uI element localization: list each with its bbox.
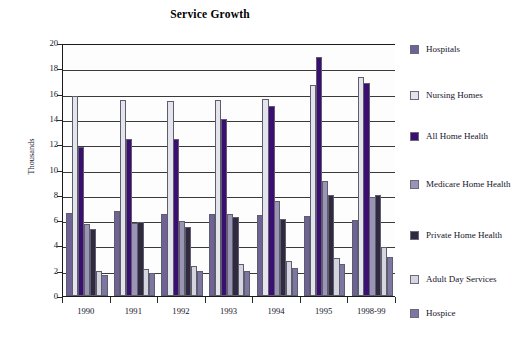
y-axis-tick-mark — [57, 196, 62, 197]
x-axis-tick-label: 1998-99 — [347, 306, 395, 316]
x-axis-tick-mark — [62, 297, 63, 303]
x-axis-tick-mark — [157, 297, 158, 303]
x-axis-tick-mark — [395, 297, 396, 303]
bar-group — [114, 45, 155, 296]
y-axis-tick-mark — [57, 272, 62, 273]
legend-item-label: Adult Day Services — [426, 274, 496, 285]
x-axis-tick-label: 1993 — [205, 306, 253, 316]
x-axis-tick-mark — [110, 297, 111, 303]
legend-item-label: Hospice — [426, 308, 456, 319]
y-axis-tick-mark — [57, 246, 62, 247]
legend-item[interactable]: Nursing Homes — [410, 90, 483, 101]
bar — [197, 271, 203, 296]
y-axis-tick-mark — [57, 171, 62, 172]
bar-group — [209, 45, 250, 296]
legend-item[interactable]: Medicare Home Health — [410, 179, 510, 190]
y-axis-tick-mark — [57, 297, 62, 298]
bar-group — [257, 45, 298, 296]
legend-item-label: All Home Health — [426, 131, 488, 142]
y-axis-tick-label: 20 — [38, 39, 58, 48]
bar-groups — [63, 45, 395, 296]
chart-title: Service Growth — [0, 8, 420, 20]
y-axis-tick-mark — [57, 145, 62, 146]
legend-item[interactable]: Hospitals — [410, 44, 460, 55]
plot-area — [62, 44, 395, 297]
y-axis-tick-label: 8 — [38, 191, 58, 200]
bar — [339, 264, 345, 296]
x-axis-tick-label: 1990 — [62, 306, 110, 316]
x-axis-tick-mark — [252, 297, 253, 303]
legend-swatch-icon — [410, 180, 419, 189]
bar — [244, 271, 250, 296]
x-axis-tick-label: 1991 — [110, 306, 158, 316]
legend-swatch-icon — [410, 309, 419, 318]
bar-group — [66, 45, 107, 296]
x-axis-tick-mark — [205, 297, 206, 303]
y-axis-tick-mark — [57, 120, 62, 121]
y-axis-tick-label: 0 — [38, 292, 58, 301]
bar-group — [304, 45, 345, 296]
y-axis-tick-label: 4 — [38, 241, 58, 250]
legend-item[interactable]: Adult Day Services — [410, 274, 496, 285]
legend-swatch-icon — [410, 45, 419, 54]
y-axis-tick-mark — [57, 95, 62, 96]
y-axis-tick-label: 14 — [38, 115, 58, 124]
legend-item[interactable]: Private Home Health — [410, 230, 502, 241]
bar-group — [352, 45, 393, 296]
chart-figure: Service Growth Thousands 024681012141618… — [0, 0, 527, 338]
y-axis-tick-label: 10 — [38, 166, 58, 175]
y-axis-tick-label: 16 — [38, 90, 58, 99]
x-axis-tick-mark — [300, 297, 301, 303]
x-axis-tick-label: 1992 — [157, 306, 205, 316]
y-axis-tick-label: 6 — [38, 216, 58, 225]
legend-swatch-icon — [410, 231, 419, 240]
x-axis-tick-mark — [347, 297, 348, 303]
x-axis: 1990199119921993199419951998-99 — [62, 297, 395, 327]
bar-group — [161, 45, 202, 296]
bar — [387, 257, 393, 296]
y-axis-tick-mark — [57, 221, 62, 222]
legend-swatch-icon — [410, 132, 419, 141]
y-axis-tick-labels: 02468101214161820 — [34, 44, 58, 297]
legend-item-label: Nursing Homes — [426, 90, 483, 101]
y-axis-tick-label: 12 — [38, 140, 58, 149]
x-axis-tick-label: 1995 — [300, 306, 348, 316]
bar — [101, 275, 107, 296]
y-axis-tick-label: 2 — [38, 267, 58, 276]
legend-swatch-icon — [410, 91, 419, 100]
legend-item-label: Medicare Home Health — [426, 179, 510, 190]
legend-item-label: Hospitals — [426, 44, 460, 55]
bar — [149, 273, 155, 296]
x-axis-tick-label: 1994 — [252, 306, 300, 316]
y-axis-tick-label: 18 — [38, 64, 58, 73]
legend-item[interactable]: All Home Health — [410, 131, 488, 142]
legend-item[interactable]: Hospice — [410, 308, 456, 319]
legend-item-label: Private Home Health — [426, 230, 502, 241]
legend-swatch-icon — [410, 275, 419, 284]
y-axis-tick-mark — [57, 69, 62, 70]
bar — [292, 268, 298, 296]
y-axis-tick-mark — [57, 44, 62, 45]
chart-legend: HospitalsNursing HomesAll Home HealthMed… — [410, 40, 525, 310]
